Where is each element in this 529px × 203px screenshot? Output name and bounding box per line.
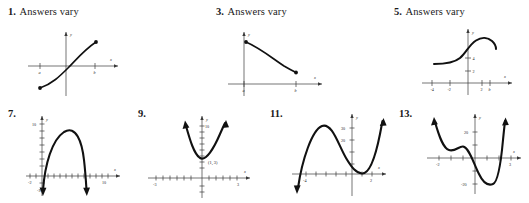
graph-5-xlabel-neg2: -2	[447, 87, 451, 92]
graph-1-xlabel-a: a	[38, 70, 40, 75]
problem-number-7: 7.	[8, 108, 16, 120]
graph-11-xlabel-2: 2	[370, 178, 372, 183]
graph-9-vertex-label: (1, 3)	[208, 160, 218, 166]
graph-5-ylabel-axis: y	[471, 30, 474, 35]
graph-5: -4 -2 2 b 2 4 y x	[420, 25, 529, 97]
graph-13-xlabel-3: 3	[509, 162, 511, 167]
graph-3-xlabel-b: b	[294, 88, 296, 93]
answer-row-top: 1.Answers vary a b y x	[0, 0, 529, 100]
graph-7-ylabel-10: 10	[32, 122, 36, 127]
answer-item-7: 7.	[0, 100, 130, 203]
graph-11: 30 20 -4 2 x y	[290, 110, 398, 200]
answer-heading-1: 1.Answers vary	[8, 6, 79, 18]
graph-13-ylabel-neg20: -20	[461, 182, 467, 187]
problem-number-1: 1.	[8, 6, 16, 17]
answer-heading-3: 3.Answers vary	[216, 6, 287, 18]
graph-7-xlabel-axis: x	[113, 167, 116, 172]
answer-heading-5: 5.Answers vary	[394, 6, 465, 18]
graph-13-xlabel-neg2: -2	[436, 162, 440, 167]
graph-9-ylabel-10: 10	[205, 124, 209, 129]
answer-row-bottom: 7.	[0, 100, 529, 203]
graph-5-xlabel-2: 2	[480, 87, 482, 92]
graph-1: a b y x	[22, 26, 142, 98]
graph-7-xlabel-neg2: -2	[28, 180, 32, 185]
problem-number-13: 13.	[399, 108, 412, 120]
graph-7-xlabel-10: 10	[102, 180, 106, 185]
graph-3-xlabel-a: a	[242, 88, 244, 93]
graph-3-ylabel-axis: y	[247, 32, 250, 37]
graph-1-ylabel-axis: y	[69, 32, 72, 37]
answer-item-9: 9.	[130, 100, 260, 203]
graph-9-ylabel-axis: y	[205, 117, 208, 122]
graph-7-ylabel-neg3: -3	[37, 188, 41, 193]
graph-11-xlabel-neg4: -4	[303, 178, 307, 183]
graph-7-ylabel-axis: y	[45, 117, 48, 122]
graph-3: a b y x	[222, 26, 347, 98]
graph-5-xlabel-axis: x	[503, 74, 506, 79]
graph-9-xlabel-neg3: -3	[153, 182, 157, 187]
answer-item-11: 11. 30 20	[260, 100, 395, 203]
graph-13-xlabel-axis: x	[512, 149, 515, 154]
graph-1-endpoint-b	[94, 40, 98, 44]
answer-item-5: 5.Answers vary -4 -2 2 b	[362, 0, 529, 100]
graph-11-ylabel-20: 20	[341, 138, 345, 143]
graph-5-xlabel-neg4: -4	[430, 87, 434, 92]
answer-key-page: 1.Answers vary a b y x	[0, 0, 529, 203]
graph-9-xlabel-3: 3	[237, 182, 239, 187]
graph-5-ylabel-4: 4	[473, 56, 476, 61]
graph-9-xlabel-axis: x	[243, 169, 246, 174]
answer-item-13: 13. 20 -20 -2	[395, 100, 529, 203]
graph-11-xlabel-axis: x	[377, 165, 380, 170]
graph-11-ylabel-30: 30	[341, 126, 345, 131]
graph-1-endpoint-a	[38, 86, 42, 90]
graph-1-xlabel-axis: x	[109, 57, 112, 62]
answer-item-3: 3.Answers vary a b y x	[176, 0, 362, 100]
answer-text-5: Answers vary	[402, 6, 465, 17]
graph-1-xlabel-b: b	[93, 70, 95, 75]
graph-5-ylabel-2: 2	[473, 69, 475, 74]
graph-3-endpoint-b	[294, 71, 298, 75]
problem-number-11: 11.	[270, 108, 283, 120]
answer-text-1: Answers vary	[16, 6, 79, 17]
problem-number-3: 3.	[216, 6, 224, 17]
graph-13: 20 -20 -2 3 x y	[425, 110, 529, 200]
answer-text-3: Answers vary	[224, 6, 287, 17]
problem-number-5: 5.	[394, 6, 402, 17]
graph-13-ylabel-20: 20	[464, 130, 468, 135]
answer-item-1: 1.Answers vary a b y x	[0, 0, 176, 100]
graph-5-xlabel-b: b	[488, 87, 490, 92]
graph-11-ylabel-axis: y	[355, 115, 358, 120]
graph-9: 10 -3 3 x y (1, 3)	[144, 112, 260, 200]
graph-3-endpoint-a	[244, 40, 248, 44]
graph-13-ylabel-axis: y	[478, 115, 481, 120]
graph-7: 10 -2 -3 10 x y	[24, 112, 132, 200]
graph-3-xlabel-axis: x	[313, 75, 316, 80]
